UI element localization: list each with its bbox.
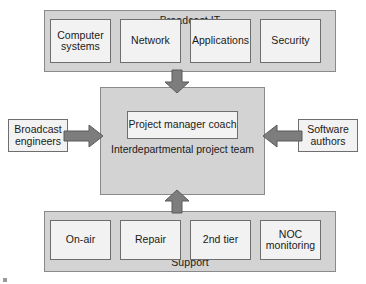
node-on-air: On-air — [50, 220, 111, 260]
node-2nd-tier-label: 2nd tier — [203, 234, 238, 246]
node-security: Security — [260, 19, 321, 63]
scan-artifact — [3, 278, 7, 282]
node-security-label: Security — [271, 35, 309, 47]
node-applications: Applications — [190, 19, 251, 63]
node-computer-systems: Computer systems — [50, 19, 111, 63]
arrow-down-icon-broadcast-it-to-team — [164, 70, 190, 94]
arrow-up-icon-support-to-team — [164, 189, 190, 213]
node-on-air-label: On-air — [66, 234, 95, 246]
node-repair: Repair — [120, 220, 181, 260]
node-project-manager-coach-label: Project manager coach — [129, 119, 237, 131]
node-repair-label: Repair — [135, 234, 166, 246]
node-broadcast-engineers-label: Broadcast engineers — [9, 124, 67, 147]
node-network-label: Network — [131, 35, 170, 47]
organisation-diagram: Broadcast IT Computer systems Network Ap… — [0, 0, 366, 284]
arrow-left-icon-software-authors-to-team — [262, 124, 302, 148]
node-2nd-tier: 2nd tier — [190, 220, 251, 260]
node-software-authors-label: Software authors — [299, 124, 357, 147]
node-computer-systems-label: Computer systems — [51, 30, 110, 53]
group-interdepartmental-project-team — [100, 87, 265, 195]
node-noc-monitoring: NOC monitoring — [260, 220, 321, 260]
node-network: Network — [120, 19, 181, 63]
arrow-right-icon-broadcast-engineers-to-team — [64, 124, 104, 148]
node-project-manager-coach: Project manager coach — [127, 111, 238, 139]
group-interdepartmental-project-team-label: Interdepartmental project team — [100, 143, 265, 155]
node-software-authors: Software authors — [298, 119, 358, 152]
node-broadcast-engineers: Broadcast engineers — [8, 119, 68, 152]
node-applications-label: Applications — [192, 35, 249, 47]
node-noc-monitoring-label: NOC monitoring — [261, 229, 320, 252]
